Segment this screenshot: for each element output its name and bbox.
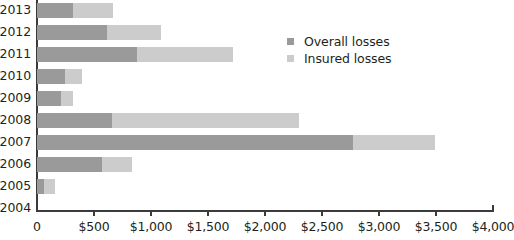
legend-item-overall-losses[interactable]: Overall losses [287,34,391,49]
bar-overall-losses-2007[interactable] [37,135,353,150]
bar-row-2008 [37,113,493,128]
x-axis-end-cap [492,205,494,211]
y-axis-label-2011: 2011 [0,46,31,61]
y-axis-label-2004: 2004 [0,200,31,215]
x-axis-label-4000: $4,000 [472,220,514,234]
bar-row-2009 [37,91,493,106]
y-axis-label-2010: 2010 [0,68,31,83]
bar-row-2012 [37,25,493,40]
y-axis-label-2006: 2006 [0,156,31,171]
y-axis-label-2013: 2013 [0,2,31,17]
x-axis-label-2000: $2,000 [244,220,287,234]
bar-row-2011 [37,47,493,62]
x-axis-label-3500: $3,500 [415,220,458,234]
bar-overall-losses-2008[interactable] [37,113,112,128]
legend-item-insured-losses[interactable]: Insured losses [287,51,391,66]
bar-row-2013 [37,3,493,18]
bar-overall-losses-2012[interactable] [37,25,107,40]
x-axis-label-500: $500 [78,220,109,234]
legend-swatch-insured-losses [287,55,294,62]
legend: Overall losses Insured losses [287,34,391,68]
bar-overall-losses-2009[interactable] [37,91,61,106]
y-axis-label-2007: 2007 [0,134,31,149]
bar-row-2007 [37,135,493,150]
legend-swatch-overall-losses [287,38,294,45]
legend-label-insured-losses: Insured losses [304,51,391,66]
y-axis-label-2009: 2009 [0,90,31,105]
bar-overall-losses-2011[interactable] [37,47,137,62]
x-axis-tick-2000 [264,211,265,216]
legend-label-overall-losses: Overall losses [304,34,390,49]
x-axis-label-1000: $1,000 [130,220,173,234]
y-axis-label-2012: 2012 [0,24,31,39]
x-axis-tick-3500 [435,211,436,216]
x-axis-start-cap [36,205,38,211]
x-axis-tick-1000 [150,211,151,216]
y-axis-label-2005: 2005 [0,178,31,193]
bar-overall-losses-2010[interactable] [37,69,65,84]
bar-row-2006 [37,157,493,172]
x-axis-tick-2500 [321,211,322,216]
x-axis-tick-1500 [207,211,208,216]
x-axis-label-0: 0 [33,220,41,234]
x-axis-label-1500: $1,500 [187,220,230,234]
x-axis-label-3000: $3,000 [358,220,401,234]
y-axis-label-2008: 2008 [0,112,31,127]
bar-row-2010 [37,69,493,84]
plot-area [37,0,493,212]
bar-overall-losses-2006[interactable] [37,157,102,172]
bar-row-2005 [37,179,493,194]
x-axis-tick-3000 [378,211,379,216]
x-axis-tick-500 [93,211,94,216]
x-axis-label-2500: $2,500 [301,220,344,234]
bar-overall-losses-2005[interactable] [37,179,44,194]
bar-overall-losses-2013[interactable] [37,3,73,18]
